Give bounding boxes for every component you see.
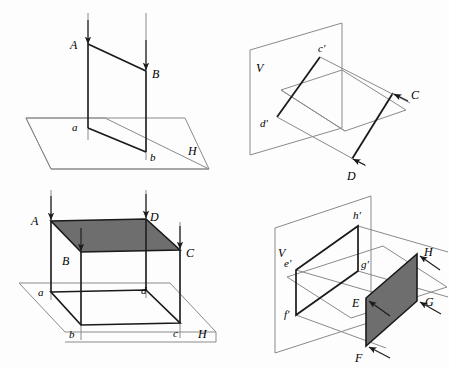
panel-bottom-left: A D B C a d b c H [19, 190, 216, 342]
label-c-prime: c' [318, 42, 326, 54]
projection-line-cd [277, 57, 320, 117]
projection-line-ab [88, 128, 146, 152]
label-plane-V: V [256, 61, 265, 75]
technical-drawing-figure: A B a b H V c' d' C D [0, 0, 449, 369]
label-plane-H: H [187, 144, 198, 158]
label-f-prime: f' [284, 308, 290, 320]
label-plane-H-lower: H [197, 327, 208, 341]
label-B: B [152, 67, 160, 81]
projector-line-c [320, 57, 410, 103]
label-H-lower-right: H [423, 245, 434, 259]
label-h-prime: h' [353, 209, 362, 221]
label-E: E [351, 296, 360, 310]
panel-top-right: V c' d' C D [250, 23, 420, 183]
panel-bottom-right: V h' e' g' f' E H G F [275, 196, 448, 365]
label-A: A [69, 38, 78, 52]
label-a: a [72, 121, 78, 133]
horizontal-plane-receding [281, 70, 406, 131]
projection-plane-efgh [296, 226, 358, 315]
label-G: G [425, 295, 434, 309]
label-b-lower: b [69, 328, 75, 340]
shaded-plane-abcd [51, 219, 180, 252]
label-g-prime: g' [361, 258, 370, 270]
label-D-lower: D [149, 210, 159, 224]
orthographic-projection-diagrams: A B a b H V c' d' C D [0, 0, 449, 369]
projector-line-d [277, 117, 366, 166]
space-line-ab [88, 44, 146, 71]
arrow-to-point-D [353, 159, 365, 165]
label-D: D [346, 169, 356, 183]
label-C-lower: C [186, 246, 195, 260]
horizontal-plane-h-extra [26, 118, 209, 169]
label-c-lower: c [173, 327, 178, 339]
label-d-lower: d [141, 284, 147, 296]
arrow-to-point-C [394, 94, 408, 101]
shaded-plane-EFGH [366, 254, 417, 346]
label-e-prime: e' [284, 257, 292, 269]
label-a-lower: a [38, 286, 44, 298]
projection-plane-abcd [51, 290, 180, 325]
horizontal-plane-h [26, 118, 209, 169]
label-A-lower: A [30, 214, 39, 228]
panel-top-left: A B a b H [26, 13, 209, 169]
label-d-prime: d' [260, 117, 269, 129]
label-b: b [150, 151, 156, 163]
label-C: C [411, 88, 420, 102]
arrow-to-point-F [369, 347, 390, 358]
label-F: F [354, 351, 363, 365]
label-B-lower: B [62, 254, 70, 268]
